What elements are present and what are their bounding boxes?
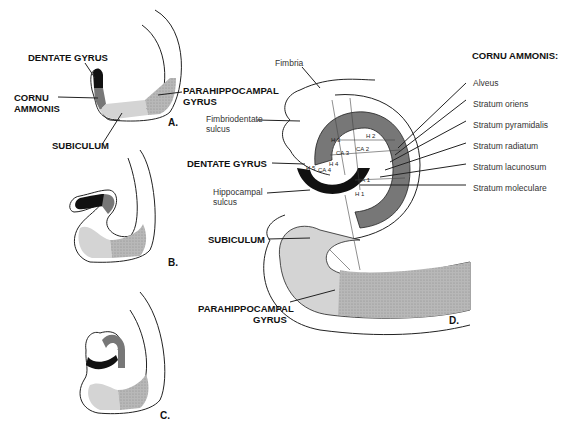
panel-b-drawing <box>70 150 155 262</box>
layer-alveus: Alveus <box>473 78 499 89</box>
panel-c-drawing <box>80 292 165 414</box>
panel-a-dentate-gyrus-label: DENTATE GYRUS <box>28 52 108 63</box>
panel-d-letter: D. <box>449 315 459 326</box>
ca2-label: CA 2 <box>356 144 369 155</box>
h5-label: H 5 <box>306 163 315 174</box>
layer-stratum-lacunosum: Stratum lacunosum <box>473 162 546 173</box>
h3-label: H 3 <box>331 135 340 146</box>
layer-stratum-moleculare: Stratum moleculare <box>473 183 547 194</box>
panel-d-subiculum-label: SUBICULUM <box>208 234 265 245</box>
panel-a-regions <box>93 68 176 119</box>
ca1-label: CA 1 <box>357 175 370 186</box>
cornu-ammonis-legend-title: CORNU AMMONIS: <box>472 50 558 61</box>
ca4-label: CA 4 <box>318 165 331 176</box>
fimbriodentate-label-2: sulcus <box>206 124 230 135</box>
layer-stratum-oriens: Stratum oriens <box>473 99 528 110</box>
layer-stratum-radiatum: Stratum radiatum <box>473 141 538 152</box>
panel-d-dentate-gyrus-label: DENTATE GYRUS <box>187 158 267 169</box>
panel-d-drawing <box>264 79 470 334</box>
h1-label: H 1 <box>355 189 364 200</box>
fimbria-label: Fimbria <box>275 58 303 69</box>
hippocampal-sulcus-label-2: sulcus <box>213 197 237 208</box>
panel-a-parahippocampal-label-1: PARAHIPPOCAMPAL <box>183 85 279 96</box>
panel-d-parahippocampal-label-2: GYRUS <box>253 314 287 325</box>
panel-d-parahippocampal-label-1: PARAHIPPOCAMPAL <box>198 303 294 314</box>
panel-a-cornu-label-1: CORNU <box>14 92 49 103</box>
h2-label: H 2 <box>366 131 375 142</box>
panel-c-letter: C. <box>160 410 170 421</box>
panel-b-letter: B. <box>168 257 178 268</box>
panel-a-parahippocampal-label-2: GYRUS <box>183 96 217 107</box>
ca3-label: CA 3 <box>336 148 349 159</box>
panel-a-subiculum-label: SUBICULUM <box>52 140 109 151</box>
panel-a-letter: A. <box>168 117 178 128</box>
panel-a-cornu-label-2: AMMONIS <box>14 103 60 114</box>
layer-stratum-pyramidalis: Stratum pyramidalis <box>473 120 548 131</box>
